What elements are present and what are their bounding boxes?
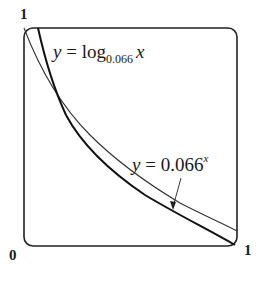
x-max-label: 1 <box>244 242 252 258</box>
annotation-arrow-head <box>170 201 176 210</box>
exp-curve-label: y = 0.066x <box>130 152 208 175</box>
y-max-label: 1 <box>20 6 28 22</box>
log-curve-label: y = log0.066x <box>51 41 145 66</box>
chart-canvas: 1 0 1 y = log0.066x y = 0.066x <box>0 0 260 283</box>
origin-label: 0 <box>9 247 17 263</box>
